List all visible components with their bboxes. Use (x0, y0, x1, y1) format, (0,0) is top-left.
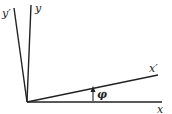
y-axis-label: y (34, 2, 42, 15)
y-prime-axis-label: y′ (1, 7, 11, 20)
x-axis-label: x (157, 103, 164, 114)
y-prime-axis (14, 8, 27, 102)
rotated-axes-diagram: x x′ y y′ φ (0, 0, 172, 114)
x-prime-axis-label: x′ (149, 62, 158, 75)
y-axis (27, 5, 31, 102)
angle-phi-label: φ (97, 88, 107, 101)
